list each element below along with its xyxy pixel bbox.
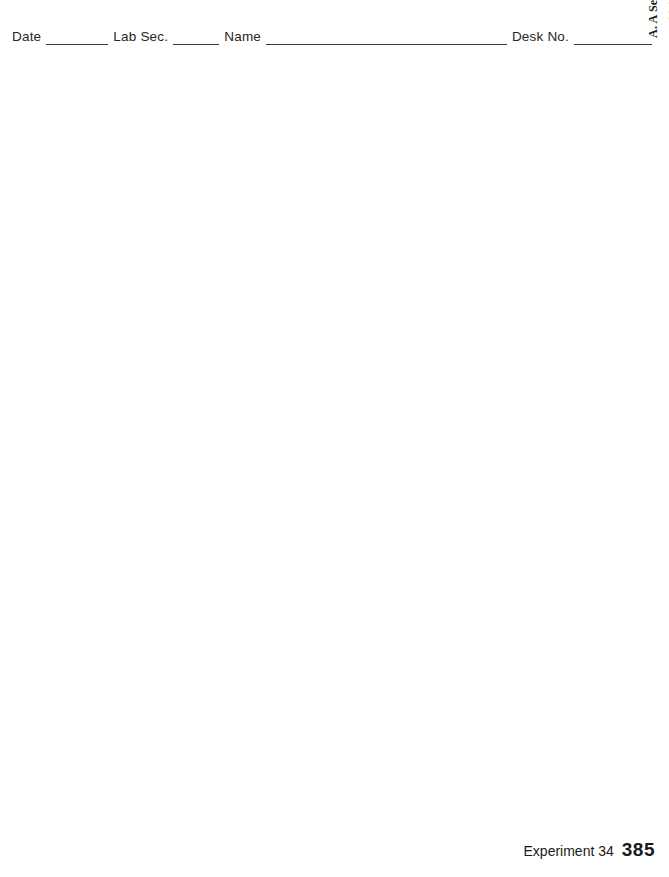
- experiment-label: Experiment 34: [524, 843, 614, 859]
- page-number: 385: [622, 839, 655, 861]
- lab-sec-label: Lab Sec.: [113, 29, 168, 46]
- worksheet-body: A. A Set of Standard Solutions to Establ…: [640, 0, 669, 46]
- page-header: Date Lab Sec. Name Desk No.: [0, 0, 669, 46]
- desk-no-label: Desk No.: [512, 29, 569, 46]
- lab-sec-field[interactable]: [173, 30, 219, 45]
- name-field[interactable]: [266, 30, 507, 45]
- name-label: Name: [224, 29, 261, 46]
- section-heading: A. A Set of Standard Solutions to Establ…: [646, 0, 661, 38]
- date-label: Date: [12, 29, 41, 46]
- rotated-form-stage: A. A Set of Standard Solutions to Establ…: [0, 46, 669, 836]
- date-field[interactable]: [46, 30, 108, 45]
- page-footer: Experiment 34 385: [524, 839, 655, 861]
